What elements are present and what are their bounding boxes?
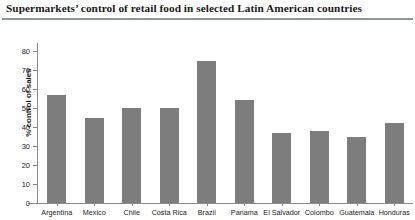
x-tick-mark: [57, 203, 58, 206]
plot-area: % control of sales 01020304050607080 Arg…: [0, 24, 415, 220]
bar-slot: [263, 23, 301, 203]
y-tick-label: 60: [0, 85, 30, 94]
x-tick-mark: [244, 203, 245, 206]
x-tick-mark: [282, 203, 283, 206]
bar-slot: [226, 23, 264, 203]
x-tick-mark: [94, 203, 95, 206]
bar: [272, 133, 291, 203]
x-tick-mark: [169, 203, 170, 206]
chart-title: Supermarkets’ control of retail food in …: [6, 1, 410, 16]
bar-series: [38, 24, 413, 204]
y-tick-label: 30: [0, 142, 30, 151]
bar: [197, 61, 216, 204]
y-tick-label: 10: [0, 180, 30, 189]
bar: [310, 131, 329, 203]
x-tick-mark: [357, 203, 358, 206]
x-tick-mark: [132, 203, 133, 206]
title-block: Supermarkets’ control of retail food in …: [0, 0, 415, 24]
bar-slot: [188, 23, 226, 203]
x-axis-labels: ArgentinaMexicoChileCosta RicaBrazilPana…: [38, 208, 413, 220]
y-tick-label: 70: [0, 66, 30, 75]
x-axis-ticks: [38, 203, 413, 207]
bar: [235, 100, 254, 203]
x-tick-mark: [207, 203, 208, 206]
bar-slot: [151, 23, 189, 203]
bar: [122, 108, 141, 203]
y-tick-label: 50: [0, 104, 30, 113]
y-tick-label: 0: [0, 199, 30, 208]
bar-slot: [301, 23, 339, 203]
bar-slot: [338, 23, 376, 203]
title-divider: [2, 18, 413, 20]
bar: [85, 118, 104, 204]
bar-slot: [38, 23, 76, 203]
bar: [385, 123, 404, 203]
bar: [47, 95, 66, 203]
chart-figure: Supermarkets’ control of retail food in …: [0, 0, 415, 220]
bar-slot: [376, 23, 414, 203]
y-tick-label: 20: [0, 161, 30, 170]
bar: [347, 137, 366, 204]
bar-slot: [113, 23, 151, 203]
x-tick-mark: [394, 203, 395, 206]
y-tick-label: 40: [0, 123, 30, 132]
bar-slot: [76, 23, 114, 203]
x-tick-label: Honduras: [368, 208, 415, 217]
bar: [160, 108, 179, 203]
y-tick-label: 80: [0, 47, 30, 56]
x-tick-mark: [319, 203, 320, 206]
